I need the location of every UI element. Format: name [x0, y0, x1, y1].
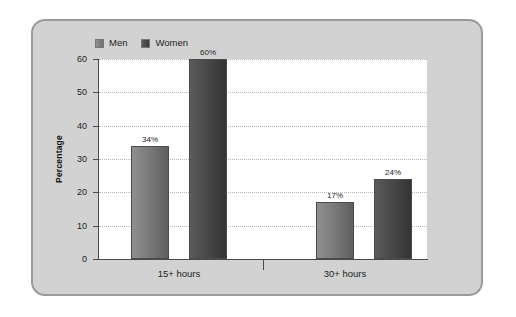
bar-value-men-15-hours: 34% [142, 135, 158, 144]
y-tick-label-20: 20 [47, 187, 87, 197]
x-axis-label-30-hours: 30+ hours [324, 268, 367, 279]
y-tick-mark-20 [93, 192, 99, 193]
gridline-40 [99, 126, 427, 127]
y-tick-mark-30 [93, 159, 99, 160]
bar-value-men-30-hours: 17% [327, 191, 343, 200]
bar-women-15-hours: 60% [189, 59, 227, 259]
legend-swatch-men-icon [95, 39, 104, 48]
legend-entry-men: Men [95, 38, 127, 48]
bar-men-15-hours: 34% [131, 146, 169, 259]
x-axis-label-15-hours: 15+ hours [158, 268, 201, 279]
y-tick-label-30: 30 [47, 154, 87, 164]
y-tick-mark-0 [93, 259, 99, 260]
legend-label-men: Men [109, 38, 127, 48]
bar-value-women-15-hours: 60% [200, 48, 216, 57]
chart-legend: Men Women [95, 35, 188, 51]
legend-label-women: Women [155, 38, 188, 48]
y-tick-mark-40 [93, 126, 99, 127]
bar-value-women-30-hours: 24% [385, 168, 401, 177]
y-tick-label-0: 0 [47, 254, 87, 264]
chart-frame: Men Women Percentage 60 50 40 [31, 19, 483, 296]
x-axis-group-separator [263, 260, 264, 270]
legend-entry-women: Women [141, 38, 188, 48]
plot-area: 60 50 40 30 20 10 0 34% 60% 17% 24% [99, 59, 427, 259]
y-tick-label-10: 10 [47, 221, 87, 231]
y-tick-label-50: 50 [47, 87, 87, 97]
gridline-50 [99, 92, 427, 93]
y-tick-mark-10 [93, 226, 99, 227]
y-tick-label-60: 60 [47, 54, 87, 64]
bar-women-30-hours: 24% [374, 179, 412, 259]
gridline-60 [99, 59, 427, 60]
y-tick-mark-50 [93, 92, 99, 93]
y-tick-mark-60 [93, 59, 99, 60]
bar-men-30-hours: 17% [316, 202, 354, 259]
legend-swatch-women-icon [141, 39, 150, 48]
y-tick-label-40: 40 [47, 121, 87, 131]
